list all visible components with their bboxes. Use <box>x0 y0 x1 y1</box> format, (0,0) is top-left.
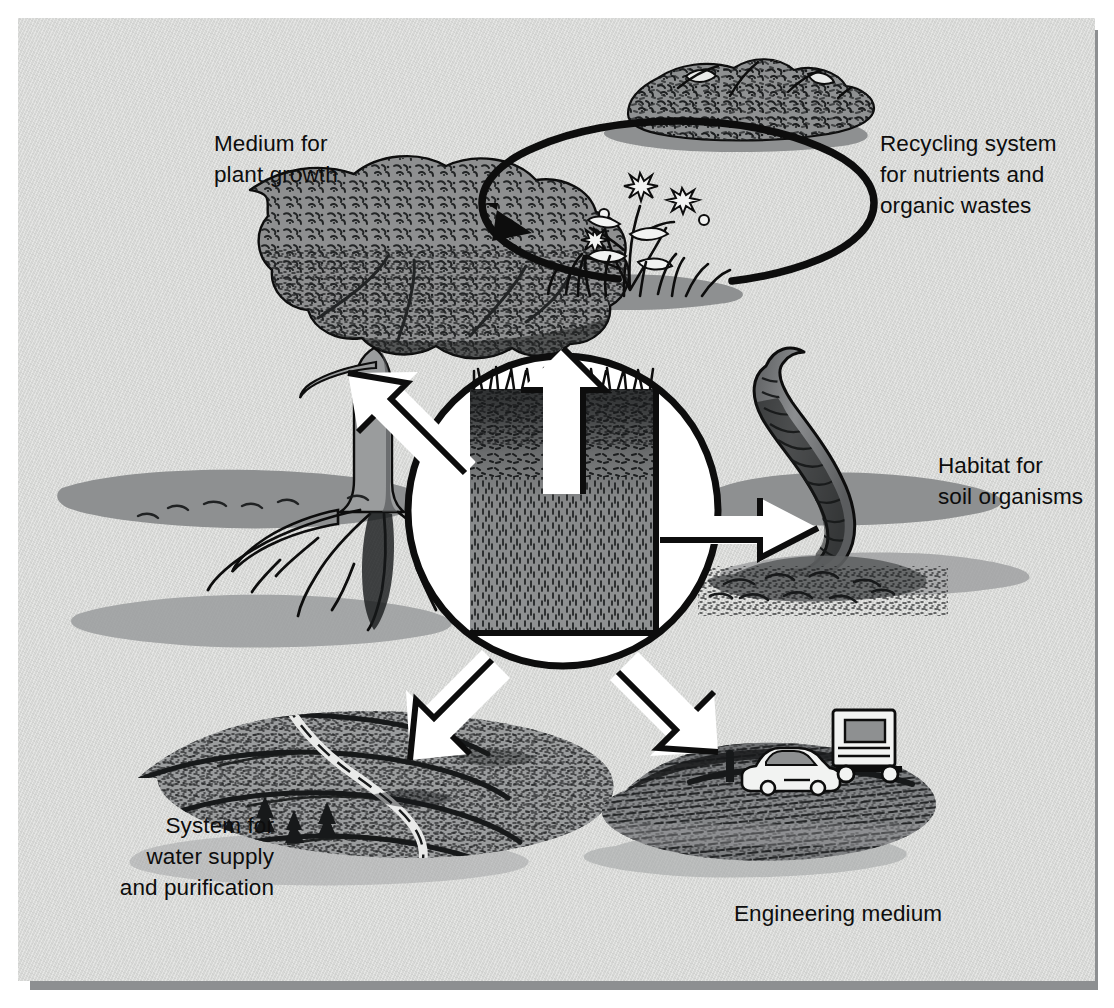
tree-ground-shadow-2 <box>71 595 452 648</box>
caption-habitat: Habitat for soil organisms <box>938 450 1083 512</box>
truck <box>833 710 902 782</box>
figure-root: Medium for plant growth Recycling system… <box>0 0 1114 1008</box>
caption-plant-growth: Medium for plant growth <box>214 128 338 190</box>
arrow-down-right <box>610 652 718 756</box>
figure-plate: Medium for plant growth Recycling system… <box>18 18 1095 981</box>
caption-recycling: Recycling system for nutrients and organ… <box>880 128 1057 221</box>
plant-flowers <box>581 173 709 253</box>
caption-engineering: Engineering medium <box>734 898 942 929</box>
caption-water-supply: System for water supply and purification <box>54 810 274 903</box>
person <box>726 750 734 782</box>
illustration-stage: Medium for plant growth Recycling system… <box>18 18 1095 981</box>
